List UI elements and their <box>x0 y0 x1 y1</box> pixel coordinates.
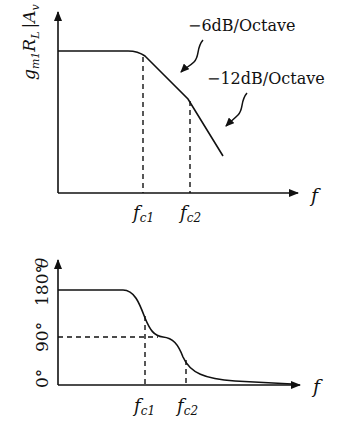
phase-fc1-label: fc1 <box>132 395 155 418</box>
phase-x-label: f <box>311 375 323 397</box>
magnitude-plot: gm1RL|Av −6dB/Octave −12dB/Octave f fc1 … <box>19 4 325 225</box>
magnitude-x-label: f <box>309 184 321 206</box>
annotation-6db: −6dB/Octave <box>188 16 296 35</box>
magnitude-fc1-label: fc1 <box>131 202 154 225</box>
magnitude-y-label: gm1RL|Av <box>19 4 42 80</box>
magnitude-curve <box>58 51 223 156</box>
phase-y-label: θ <box>32 258 52 268</box>
annotation-12db-arrow <box>226 93 247 126</box>
annotation-12db: −12dB/Octave <box>207 69 325 88</box>
bode-plot-diagram: gm1RL|Av −6dB/Octave −12dB/Octave f fc1 … <box>0 0 360 433</box>
phase-y-tick-0: 0° <box>32 369 52 388</box>
magnitude-fc2-label: fc2 <box>178 202 201 225</box>
annotation-6db-arrow <box>181 40 203 72</box>
phase-y-tick-90: 90° <box>32 322 52 352</box>
phase-plot: 0° 90° 180° θ f fc1 fc2 <box>32 258 323 418</box>
phase-curve <box>58 290 292 384</box>
phase-y-tick-180: 180° <box>32 265 52 306</box>
phase-fc2-label: fc2 <box>175 395 198 418</box>
